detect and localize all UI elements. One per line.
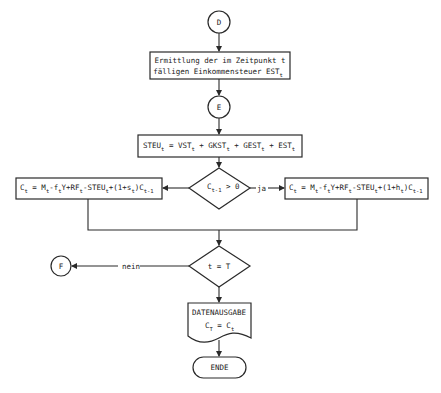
svg-text:t = T: t = T [208, 262, 231, 271]
decision-capital: Ct-1 > 0 [189, 168, 250, 209]
decision-end: t = T [189, 246, 250, 287]
process-est-box: Ermittlung der im Zeitpunkt t fälligen E… [150, 52, 290, 79]
svg-text:ENDE: ENDE [210, 363, 229, 372]
output-document: DATENAUSGABE CT = Ct [188, 303, 251, 342]
flowchart: D Ermittlung der im Zeitpunkt t fälligen… [0, 0, 441, 393]
process-left-box: Ct = Mt-ftY+RFt-STEUt+(1+st)Ct-1 [16, 178, 162, 199]
process-right-box: Ct = Mt-ftY+RFt-STEUt+(1+ht)Ct-1 [285, 178, 428, 199]
yes-label: ja [257, 184, 266, 193]
terminator-end: ENDE [193, 357, 246, 378]
svg-text:D: D [217, 18, 222, 27]
output-title: DATENAUSGABE [192, 308, 247, 317]
svg-text:F: F [59, 262, 64, 271]
est-line1: Ermittlung der im Zeitpunkt t [155, 56, 286, 65]
svg-text:E: E [217, 103, 222, 112]
connector-d: D [208, 11, 230, 33]
connector-e: E [208, 96, 230, 118]
process-steu-box: STEUt = VSTt + GKSTt + GESTt + ESTt [138, 135, 302, 157]
no-label: nein [122, 262, 140, 271]
connector-f: F [51, 256, 71, 276]
